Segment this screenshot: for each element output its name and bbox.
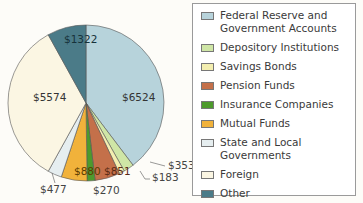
slice-value-label: $477: [40, 183, 67, 195]
leader-line: [150, 162, 165, 166]
legend-swatch-icon: [201, 139, 214, 147]
pie-chart: $6524$353$183$851$270$880$477$5574$1322: [0, 0, 192, 203]
legend-item: Federal Reserve and Government Accounts: [201, 9, 355, 35]
slice-value-label: $6524: [122, 91, 156, 103]
legend-item: State and Local Governments: [201, 136, 355, 162]
slice-value-label: $270: [93, 184, 120, 196]
legend-swatch-icon: [201, 101, 214, 109]
leader-line: [140, 171, 150, 179]
legend-swatch-icon: [201, 82, 214, 90]
slice-value-label: $353: [168, 159, 192, 171]
legend-label: State and Local Governments: [220, 136, 355, 162]
legend-swatch-icon: [201, 171, 214, 179]
slice-value-label: $851: [104, 165, 131, 177]
legend-swatch-icon: [201, 63, 214, 71]
legend-item: Foreign: [201, 168, 355, 181]
legend-label: Savings Bonds: [220, 60, 355, 73]
slice-value-label: $880: [74, 165, 101, 177]
legend-item: Savings Bonds: [201, 60, 355, 73]
legend-swatch-icon: [201, 44, 214, 52]
legend-item: Insurance Companies: [201, 98, 355, 111]
legend-swatch-icon: [201, 120, 214, 128]
legend-item: Other: [201, 187, 355, 200]
legend-swatch-icon: [201, 190, 214, 198]
legend-swatch-icon: [201, 12, 214, 20]
legend: Federal Reserve and Government AccountsD…: [192, 3, 356, 196]
slice-value-label: $1322: [64, 33, 97, 45]
legend-label: Foreign: [220, 168, 355, 181]
legend-label: Mutual Funds: [220, 117, 355, 130]
legend-label: Federal Reserve and Government Accounts: [220, 9, 355, 35]
legend-item: Mutual Funds: [201, 117, 355, 130]
slice-value-label: $5574: [33, 91, 67, 103]
legend-label: Other: [220, 187, 355, 200]
legend-item: Pension Funds: [201, 79, 355, 92]
slice-value-label: $183: [152, 171, 179, 183]
legend-label: Insurance Companies: [220, 98, 355, 111]
legend-label: Pension Funds: [220, 79, 355, 92]
legend-item: Depository Institutions: [201, 41, 355, 54]
legend-label: Depository Institutions: [220, 41, 355, 54]
